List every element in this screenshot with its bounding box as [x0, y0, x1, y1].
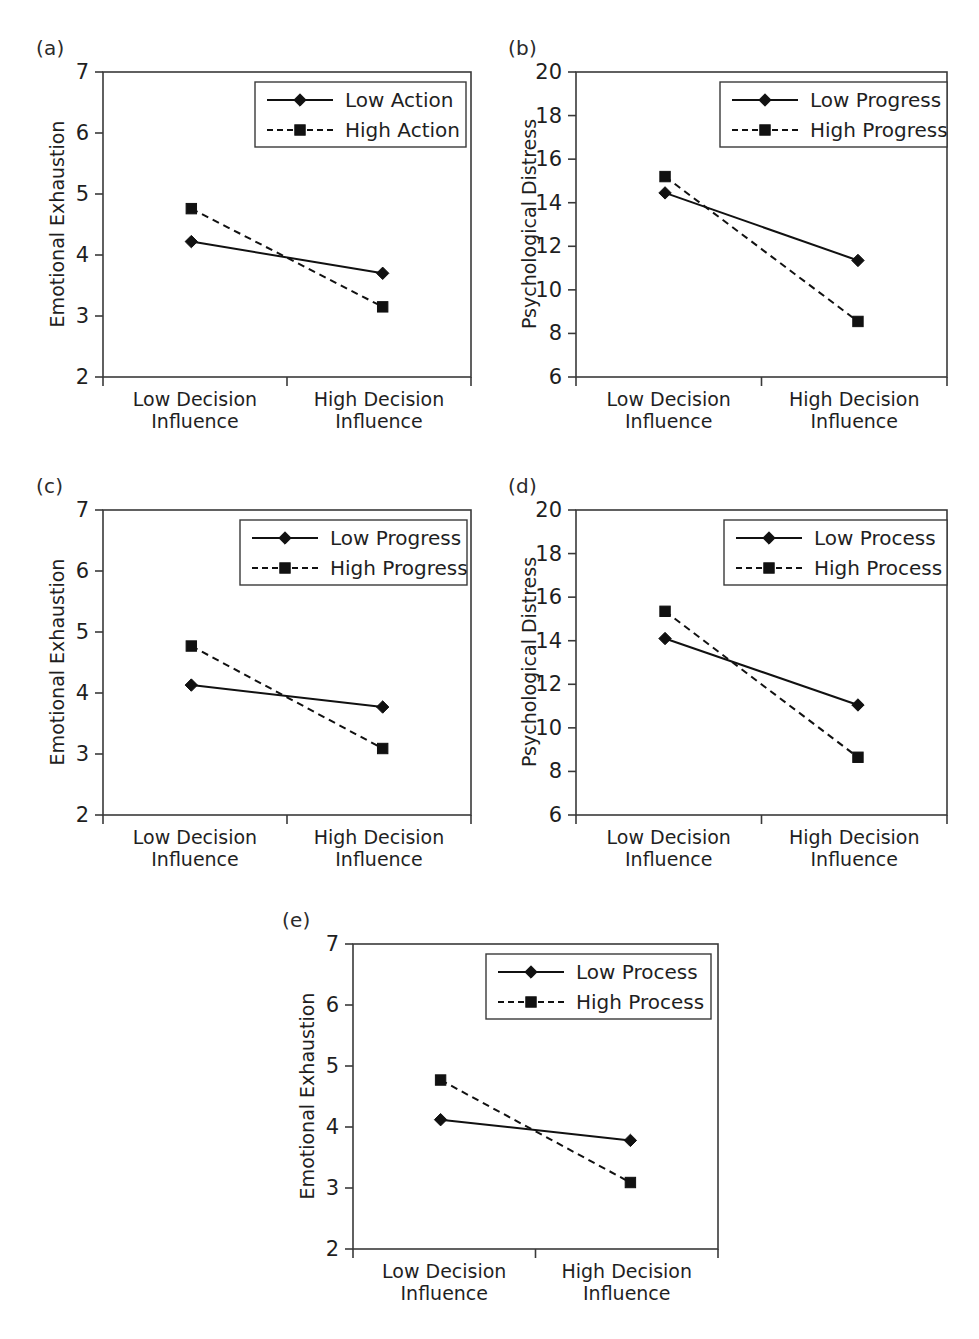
x-axis-category-low: Low DecisionInfluence	[105, 388, 285, 433]
plot-area-b: 68101214161820Low ProgressHigh Progress	[508, 36, 961, 391]
x-axis-category-line2: Influence	[764, 848, 944, 870]
series-line-low	[665, 639, 858, 705]
y-axis-tick-label: 3	[76, 304, 89, 328]
data-point-high	[377, 302, 387, 312]
y-axis-tick-label: 16	[535, 147, 562, 171]
x-axis-category-line1: Low Decision	[354, 1260, 534, 1282]
legend-swatch-marker	[295, 125, 305, 135]
y-axis-tick-label: 7	[76, 498, 89, 522]
data-point-low	[185, 235, 197, 247]
y-axis-tick-label: 3	[326, 1176, 339, 1200]
x-axis-category-high: High DecisionInfluence	[537, 1260, 717, 1305]
y-axis-tick-label: 12	[535, 672, 562, 696]
legend-label[interactable]: Low Progress	[330, 526, 461, 550]
data-point-high	[853, 316, 863, 326]
y-axis-tick-label: 12	[535, 234, 562, 258]
x-axis-category-line1: Low Decision	[105, 388, 285, 410]
data-point-high	[660, 606, 670, 616]
panel-d: (d)Psychological Distress68101214161820L…	[508, 474, 964, 904]
y-axis-tick-label: 6	[326, 993, 339, 1017]
y-axis-tick-label: 7	[326, 932, 339, 956]
x-axis-category-line1: Low Decision	[105, 826, 285, 848]
legend-label[interactable]: Low Action	[345, 88, 453, 112]
panel-a: (a)Emotional Exhaustion234567Low ActionH…	[36, 36, 488, 466]
x-axis-category-low: Low DecisionInfluence	[579, 826, 759, 871]
legend-label[interactable]: High Process	[814, 556, 942, 580]
y-axis-tick-label: 2	[326, 1237, 339, 1261]
legend-swatch-marker	[760, 125, 770, 135]
x-axis-category-high: High DecisionInfluence	[764, 388, 944, 433]
x-axis-category-line1: High Decision	[289, 388, 469, 410]
y-axis-tick-label: 4	[326, 1115, 339, 1139]
data-point-high	[625, 1177, 635, 1187]
panel-c: (c)Emotional Exhaustion234567Low Progres…	[36, 474, 488, 904]
x-axis-category-high: High DecisionInfluence	[289, 388, 469, 433]
y-axis-tick-label: 6	[549, 365, 562, 389]
legend-swatch-marker	[526, 997, 536, 1007]
series-line-high	[441, 1080, 631, 1182]
y-axis-tick-label: 18	[535, 104, 562, 128]
panel-e: (e)Emotional Exhaustion234567Low Process…	[282, 908, 734, 1333]
x-axis-category-high: High DecisionInfluence	[289, 826, 469, 871]
y-axis-tick-label: 2	[76, 803, 89, 827]
x-axis-category-line1: High Decision	[764, 826, 944, 848]
y-axis-tick-label: 14	[535, 629, 562, 653]
legend-swatch-marker	[764, 563, 774, 573]
series-line-low	[191, 685, 382, 707]
x-axis-category-line2: Influence	[579, 848, 759, 870]
series-line-low	[441, 1120, 631, 1141]
y-axis-tick-label: 16	[535, 585, 562, 609]
y-axis-tick-label: 5	[76, 620, 89, 644]
x-axis-category-line1: Low Decision	[579, 826, 759, 848]
x-axis-category-line1: Low Decision	[579, 388, 759, 410]
data-point-low	[376, 701, 388, 713]
y-axis-tick-label: 5	[76, 182, 89, 206]
x-axis-category-low: Low DecisionInfluence	[579, 388, 759, 433]
data-point-high	[435, 1075, 445, 1085]
data-point-low	[624, 1134, 636, 1146]
panel-b: (b)Psychological Distress68101214161820L…	[508, 36, 964, 466]
data-point-low	[852, 699, 864, 711]
data-point-high	[660, 171, 670, 181]
x-axis-category-low: Low DecisionInfluence	[105, 826, 285, 871]
x-axis-category-line2: Influence	[579, 410, 759, 432]
y-axis-tick-label: 20	[535, 60, 562, 84]
data-point-high	[186, 203, 196, 213]
data-point-low	[434, 1113, 446, 1125]
y-axis-tick-label: 7	[76, 60, 89, 84]
data-point-high	[853, 752, 863, 762]
data-point-low	[852, 254, 864, 266]
legend-label[interactable]: Low Progress	[810, 88, 941, 112]
y-axis-tick-label: 6	[549, 803, 562, 827]
legend-label[interactable]: High Process	[576, 990, 704, 1014]
y-axis-tick-label: 5	[326, 1054, 339, 1078]
data-point-low	[659, 187, 671, 199]
y-axis-tick-label: 20	[535, 498, 562, 522]
y-axis-tick-label: 6	[76, 559, 89, 583]
y-axis-tick-label: 4	[76, 681, 89, 705]
series-line-low	[191, 242, 382, 274]
plot-area-c: 234567Low ProgressHigh Progress	[36, 474, 485, 829]
legend-label[interactable]: High Progress	[810, 118, 948, 142]
y-axis-tick-label: 10	[535, 278, 562, 302]
legend-label[interactable]: Low Process	[814, 526, 936, 550]
series-line-high	[665, 177, 858, 322]
x-axis-category-line2: Influence	[764, 410, 944, 432]
y-axis-tick-label: 10	[535, 716, 562, 740]
y-axis-tick-label: 3	[76, 742, 89, 766]
series-line-high	[191, 646, 382, 748]
legend-label[interactable]: High Progress	[330, 556, 468, 580]
data-point-low	[659, 632, 671, 644]
data-point-high	[186, 641, 196, 651]
plot-area-a: 234567Low ActionHigh Action	[36, 36, 485, 391]
y-axis-tick-label: 8	[549, 759, 562, 783]
x-axis-category-line2: Influence	[537, 1282, 717, 1304]
legend-label[interactable]: High Action	[345, 118, 460, 142]
y-axis-tick-label: 14	[535, 191, 562, 215]
x-axis-category-line2: Influence	[105, 410, 285, 432]
y-axis-tick-label: 8	[549, 321, 562, 345]
x-axis-category-line1: High Decision	[289, 826, 469, 848]
legend-label[interactable]: Low Process	[576, 960, 698, 984]
data-point-low	[185, 679, 197, 691]
y-axis-tick-label: 6	[76, 121, 89, 145]
